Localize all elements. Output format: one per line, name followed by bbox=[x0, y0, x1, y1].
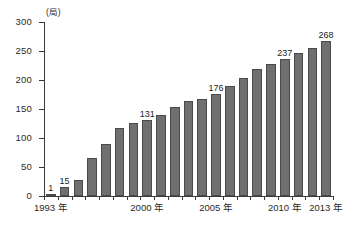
x-axis-tick bbox=[264, 196, 265, 200]
bar bbox=[294, 53, 304, 196]
x-axis-tick bbox=[58, 196, 59, 200]
plot-area: 300250200150100500 115131176237268 bbox=[44, 22, 333, 196]
y-axis-tick-label: 250 bbox=[16, 46, 32, 56]
x-axis-tick bbox=[72, 196, 73, 200]
x-axis-tick bbox=[113, 196, 114, 200]
x-axis-tick-label: 2000 年 bbox=[130, 203, 164, 213]
bar: 176 bbox=[211, 94, 221, 196]
bar bbox=[197, 99, 207, 196]
bar: 1 bbox=[46, 194, 56, 196]
x-axis-tick-label: 2010 年 bbox=[268, 203, 302, 213]
bar bbox=[74, 180, 84, 196]
bar bbox=[225, 86, 235, 196]
bar bbox=[252, 69, 262, 196]
bar-value-label: 237 bbox=[277, 49, 292, 58]
x-axis-tick bbox=[99, 196, 100, 200]
bar-value-label: 176 bbox=[209, 84, 224, 93]
bar-value-label: 1 bbox=[48, 184, 53, 193]
x-axis-tick bbox=[305, 196, 306, 200]
x-axis-tick bbox=[333, 196, 334, 200]
x-axis-tick bbox=[223, 196, 224, 200]
bar bbox=[115, 128, 125, 196]
x-axis-tick bbox=[127, 196, 128, 200]
x-axis-tick-label: 2013 年 bbox=[309, 203, 343, 213]
x-axis-tick bbox=[154, 196, 155, 200]
x-axis-tick bbox=[44, 196, 45, 200]
bar-series: 115131176237268 bbox=[44, 22, 333, 196]
y-axis-unit-label: (局) bbox=[46, 8, 61, 17]
bar bbox=[129, 123, 139, 196]
x-axis-tick bbox=[182, 196, 183, 200]
bar: 237 bbox=[280, 59, 290, 196]
bar bbox=[308, 48, 318, 196]
x-axis-tick bbox=[140, 196, 141, 200]
bar-value-label: 131 bbox=[140, 110, 155, 119]
x-axis-tick bbox=[195, 196, 196, 200]
bar bbox=[101, 144, 111, 196]
bar: 268 bbox=[321, 41, 331, 196]
x-axis-line bbox=[44, 196, 334, 197]
x-axis-tick bbox=[209, 196, 210, 200]
bar bbox=[239, 78, 249, 196]
y-axis-tick-label: 150 bbox=[16, 104, 32, 114]
y-axis-tick-label: 100 bbox=[16, 133, 32, 143]
x-axis-tick bbox=[85, 196, 86, 200]
bar bbox=[266, 64, 276, 196]
bar bbox=[156, 115, 166, 196]
y-axis-tick-label: 50 bbox=[21, 162, 32, 172]
x-axis-tick bbox=[250, 196, 251, 200]
bar bbox=[184, 101, 194, 196]
y-axis-tick-label: 200 bbox=[16, 75, 32, 85]
bar bbox=[170, 107, 180, 196]
bar-value-label: 268 bbox=[319, 31, 334, 40]
bar: 131 bbox=[142, 120, 152, 196]
x-axis-tick bbox=[237, 196, 238, 200]
x-axis-tick bbox=[319, 196, 320, 200]
x-axis-tick-label: 1993 年 bbox=[34, 203, 68, 213]
bar-value-label: 15 bbox=[60, 177, 70, 186]
x-axis-tick bbox=[168, 196, 169, 200]
bar bbox=[87, 158, 97, 196]
x-axis-tick-label: 2005 年 bbox=[199, 203, 233, 213]
y-axis-tick-label: 0 bbox=[27, 191, 32, 201]
bar-chart: (局) 300250200150100500 115131176237268 1… bbox=[0, 0, 345, 231]
y-axis-tick-label: 300 bbox=[16, 17, 32, 27]
bar: 15 bbox=[60, 187, 70, 196]
x-axis-tick bbox=[278, 196, 279, 200]
x-axis-tick bbox=[292, 196, 293, 200]
